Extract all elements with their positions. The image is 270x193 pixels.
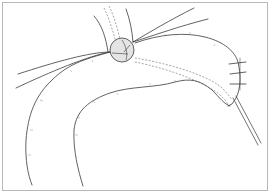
organ-upper-wall (135, 34, 240, 106)
organ-inner-wall (74, 80, 230, 186)
tube-right-wall (126, 9, 133, 42)
organ-outer-wall (26, 52, 110, 185)
catheter (233, 98, 258, 145)
tube-left-wall (94, 16, 108, 52)
anastomosis-site (110, 38, 134, 62)
catheter-2 (236, 96, 261, 143)
surgical-illustration (0, 0, 270, 193)
